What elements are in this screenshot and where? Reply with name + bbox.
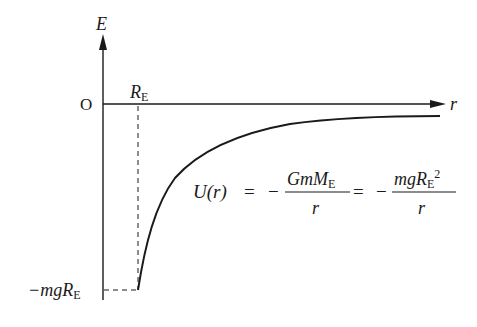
svg-text:U(r): U(r) [193,181,227,203]
potential-equation: U(r) = − GmME r = − mgRE2 r [193,167,456,218]
y-axis-arrow-icon [99,34,107,50]
x-axis-arrow-icon [430,100,446,108]
svg-text:=: = [353,181,364,202]
x-axis-label: r [450,94,458,114]
svg-text:=: = [244,181,255,202]
y-marker-label: −mgRE [28,280,81,302]
svg-text:−: − [376,181,387,202]
svg-text:r: r [418,198,426,218]
svg-text:−: − [268,181,279,202]
potential-energy-diagram: E r O RE −mgRE U(r) = − GmME r = − mgRE2 [0,0,477,327]
svg-text:r: r [312,198,320,218]
x-marker-label: RE [129,82,148,104]
origin-label: O [80,95,92,114]
y-axis-label: E [95,14,107,34]
svg-text:GmME: GmME [287,169,335,191]
potential-curve [138,116,440,290]
svg-text:mgRE2: mgRE2 [394,167,440,191]
